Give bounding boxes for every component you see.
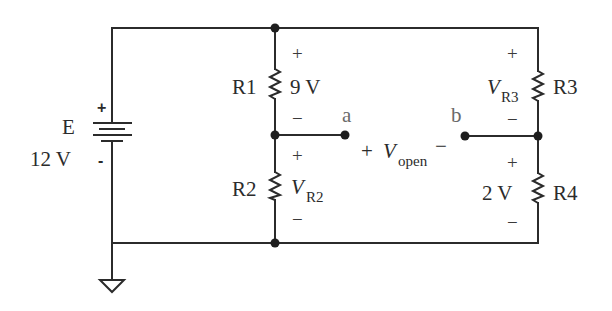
r1-minus: − <box>292 108 303 129</box>
node-top <box>271 24 280 33</box>
r4-minus: − <box>507 212 518 233</box>
r2-voltage-subscript: R2 <box>306 189 324 205</box>
r3-plus: + <box>507 43 518 64</box>
r2-resistor-icon <box>270 172 280 200</box>
r3-minus: − <box>507 109 518 130</box>
circuit-diagram: + - E 12 V R1 9 V + − R2 V R2 + − V R3 R… <box>0 0 612 311</box>
r2-plus: + <box>292 145 303 166</box>
r1-voltage: 9 V <box>290 75 321 99</box>
vopen-symbol: V <box>383 139 398 163</box>
r4-voltage: 2 V <box>482 181 513 205</box>
r1-plus: + <box>292 43 303 64</box>
r1-label: R1 <box>232 75 257 99</box>
terminal-b-label: b <box>451 103 462 127</box>
battery-symbol <box>94 123 131 141</box>
r4-resistor-icon <box>533 173 543 203</box>
r2-label: R2 <box>232 177 257 201</box>
terminal-b-dot <box>461 132 470 141</box>
r3-voltage-symbol: V <box>487 75 502 99</box>
node-bottom <box>271 239 280 248</box>
battery-plus-sign: + <box>97 99 106 116</box>
wires <box>112 28 538 280</box>
vopen-minus: − <box>435 134 447 158</box>
r4-plus: + <box>507 152 518 173</box>
r3-label: R3 <box>553 75 578 99</box>
battery-minus-sign: - <box>98 152 103 169</box>
vopen-plus: + <box>361 139 373 163</box>
vopen-subscript: open <box>398 153 428 169</box>
ground-icon <box>100 280 124 292</box>
r2-voltage-symbol: V <box>291 175 306 199</box>
node-mid-left <box>271 131 280 140</box>
r4-label: R4 <box>553 181 578 205</box>
r1-resistor-icon <box>270 69 280 99</box>
r3-resistor-icon <box>533 71 543 101</box>
terminal-a-label: a <box>342 103 352 127</box>
terminal-a-dot <box>341 131 350 140</box>
source-name: E <box>62 115 75 139</box>
r3-voltage-subscript: R3 <box>501 89 519 105</box>
r2-minus: − <box>292 209 303 230</box>
node-mid-right <box>534 132 543 141</box>
source-value: 12 V <box>30 147 71 171</box>
